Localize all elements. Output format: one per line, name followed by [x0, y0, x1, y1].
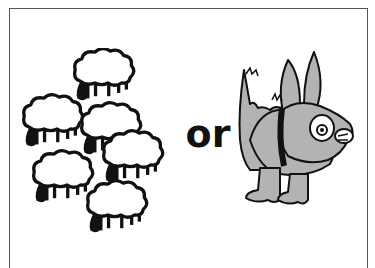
- sheep-icon: [88, 181, 147, 233]
- or-label: or: [178, 112, 238, 156]
- sheep-icon: [34, 151, 93, 203]
- sheep-flock-illustration: [18, 48, 170, 240]
- sheep-icon: [24, 95, 83, 147]
- dog-icon: [232, 50, 357, 215]
- sheep-icon: [75, 49, 134, 101]
- sheep-icon: [104, 131, 163, 183]
